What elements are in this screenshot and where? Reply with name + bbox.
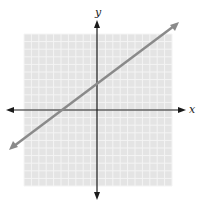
x-axis-arrow-right-icon bbox=[178, 107, 186, 113]
x-axis-arrow-left-icon bbox=[6, 107, 14, 113]
x-axis-label: x bbox=[189, 103, 195, 116]
line-arrow-lower-icon bbox=[9, 141, 18, 150]
y-axis-arrow-down-icon bbox=[94, 192, 100, 200]
y-axis-arrow-up-icon bbox=[94, 20, 100, 28]
y-axis-label: y bbox=[95, 6, 101, 19]
line-arrow-upper-icon bbox=[170, 22, 179, 31]
coordinate-plane bbox=[0, 0, 197, 209]
